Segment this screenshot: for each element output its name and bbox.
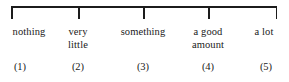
scale-label-row: nothing very little something a good amo… xyxy=(0,25,289,57)
response-scale-figure: nothing very little something a good amo… xyxy=(0,0,289,82)
axis-tick-5 xyxy=(276,6,278,19)
axis-tick-4 xyxy=(208,6,210,19)
axis-tick-2 xyxy=(78,6,80,19)
scale-label-5: a lot xyxy=(214,25,289,38)
scale-label-4-line2: amount xyxy=(158,38,258,51)
scale-label-2-line1: very xyxy=(68,26,87,37)
scale-axis xyxy=(0,0,289,24)
scale-label-5-line1: a lot xyxy=(255,26,274,37)
scale-number-row: (1) (2) (3) (4) (5) xyxy=(0,60,289,80)
axis-tick-1 xyxy=(11,6,13,19)
scale-label-2-line2: little xyxy=(28,38,128,51)
axis-tick-3 xyxy=(143,6,145,19)
scale-number-5: (5) xyxy=(216,60,289,73)
